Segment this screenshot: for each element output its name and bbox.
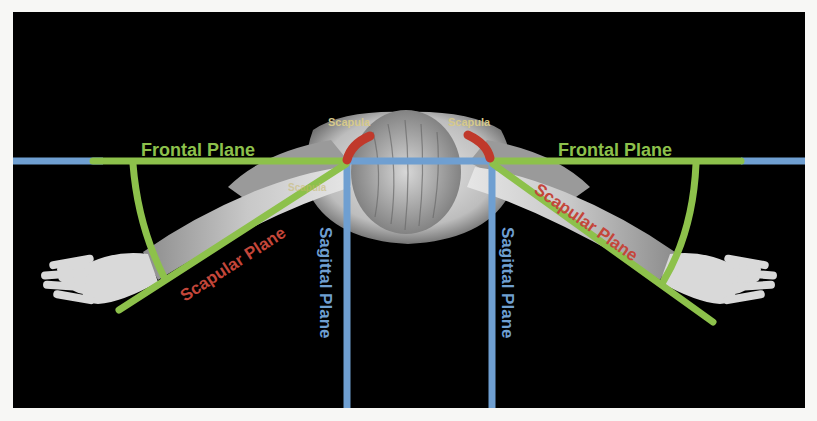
- scapula-left-label: Scapula: [328, 116, 371, 128]
- scapula-right-label: Scapula: [448, 116, 491, 128]
- diagram-panel: Frontal Plane Frontal Plane Scapula Scap…: [13, 12, 805, 408]
- sagittal-plane-left-label: Sagittal Plane: [316, 227, 335, 338]
- frontal-plane-right-label: Frontal Plane: [558, 140, 672, 160]
- sagittal-plane-right-label: Sagittal Plane: [498, 227, 517, 338]
- frontal-plane-left-label: Frontal Plane: [141, 140, 255, 160]
- shoulder-planes-diagram: Frontal Plane Frontal Plane Scapula Scap…: [13, 12, 805, 408]
- scapula-faint-label: Scapula: [288, 182, 327, 193]
